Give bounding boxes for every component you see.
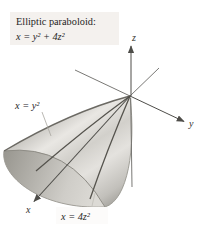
figure-canvas: x = y² x = 4z² z y x Elliptic paraboloid… [0, 0, 200, 235]
xz-trace-label: x = 4z² [60, 211, 91, 222]
y-axis [130, 96, 184, 122]
xy-trace-label: x = y² [14, 100, 40, 111]
title-box-equation: x = y² + 4z² [15, 31, 66, 42]
elliptic-paraboloid-figure: x = y² x = 4z² z y x Elliptic paraboloid… [0, 0, 200, 235]
y-axis-negative [75, 70, 130, 96]
x-axis-label: x [25, 204, 31, 215]
y-axis-label: y [188, 118, 194, 129]
x-axis-negative [130, 68, 159, 96]
z-axis-label: z [131, 32, 136, 43]
title-box-heading: Elliptic paraboloid: [16, 16, 96, 27]
